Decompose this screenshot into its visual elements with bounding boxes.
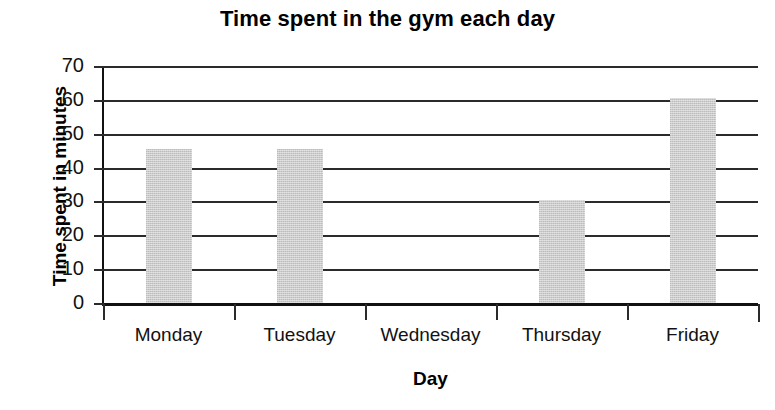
x-axis-tick (103, 304, 105, 320)
x-axis-tick-label-friday: Friday (627, 324, 758, 346)
x-axis-tick (496, 304, 498, 320)
y-axis-tick-label: 60 (38, 89, 84, 109)
bar-friday (670, 98, 716, 303)
bar-monday (146, 149, 192, 303)
gridline (103, 66, 758, 68)
y-axis-tick-label: 30 (38, 190, 84, 210)
y-axis-tick-label: 0 (38, 292, 84, 312)
y-axis-tick (94, 269, 104, 271)
y-axis-tick-labels: 010203040506070 (38, 0, 84, 410)
bar-thursday (539, 200, 585, 303)
x-axis-tick-label-tuesday: Tuesday (234, 324, 365, 346)
gridline (103, 134, 758, 136)
bar-chart: Time spent in the gym each day Time spen… (0, 0, 775, 410)
bar-tuesday (277, 149, 323, 303)
x-axis-tick-label-wednesday: Wednesday (365, 324, 496, 346)
gridline (103, 303, 758, 306)
y-axis-tick (94, 134, 104, 136)
x-axis-tick-label-thursday: Thursday (496, 324, 627, 346)
plot-area (103, 66, 758, 303)
y-axis-tick (94, 201, 104, 203)
gridline (103, 168, 758, 170)
y-axis-tick (94, 66, 104, 68)
x-axis-tick (758, 304, 760, 322)
y-axis-tick-label: 20 (38, 224, 84, 244)
gridline (103, 201, 758, 203)
x-axis-tick (234, 304, 236, 320)
x-axis-title: Day (103, 368, 758, 390)
y-axis-tick (94, 168, 104, 170)
gridline (103, 100, 758, 102)
chart-title: Time spent in the gym each day (0, 6, 775, 32)
y-axis-tick (94, 100, 104, 102)
gridline (103, 269, 758, 271)
y-axis-tick-label: 40 (38, 157, 84, 177)
x-axis-tick (365, 304, 367, 320)
y-axis-tick (94, 235, 104, 237)
x-axis-tick-label-monday: Monday (103, 324, 234, 346)
y-axis-tick-label: 10 (38, 258, 84, 278)
gridline (103, 235, 758, 237)
y-axis-tick-label: 70 (38, 55, 84, 75)
x-axis-tick (627, 304, 629, 320)
y-axis-tick-label: 50 (38, 123, 84, 143)
